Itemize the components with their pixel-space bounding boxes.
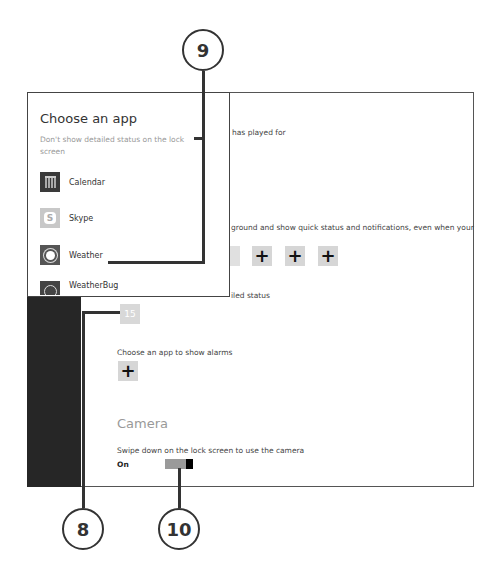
app-label: Skype xyxy=(69,214,93,223)
plus-icon: + xyxy=(287,247,302,265)
alarms-label: Choose an app to show alarms xyxy=(117,348,232,357)
flyout-title: Choose an app xyxy=(40,111,137,126)
callout-8-line xyxy=(82,311,85,508)
weather-icon xyxy=(40,245,60,265)
app-option-skype[interactable]: S Skype xyxy=(40,207,93,229)
app-label: WeatherBug xyxy=(69,281,118,290)
toggle-thumb xyxy=(186,459,193,469)
add-background-app-button-3[interactable]: + xyxy=(318,246,338,266)
app-option-weatherbug[interactable]: WeatherBug xyxy=(40,281,118,295)
settings-sidebar xyxy=(27,297,81,487)
callout-8-pointer xyxy=(82,311,120,314)
detailed-status-app-button[interactable]: 15 xyxy=(120,304,140,324)
skype-icon: S xyxy=(40,208,60,228)
dont-show-detailed-status-option[interactable]: Don't show detailed status on the lock s… xyxy=(40,134,210,158)
callout-9-line xyxy=(202,71,205,264)
app-label: Weather xyxy=(69,251,103,260)
add-background-app-button-2[interactable]: + xyxy=(285,246,305,266)
toggle-track xyxy=(165,459,186,469)
camera-section-title: Camera xyxy=(117,416,168,431)
callout-10-line xyxy=(178,468,181,508)
background-app-slot-1[interactable] xyxy=(230,246,240,266)
calendar-icon xyxy=(40,172,60,192)
camera-description: Swipe down on the lock screen to use the… xyxy=(117,446,304,455)
callout-9-pointer xyxy=(108,261,205,264)
callout-9-tick xyxy=(194,137,204,140)
app-option-weather[interactable]: Weather xyxy=(40,244,103,266)
calendar-date-icon: 15 xyxy=(124,309,135,319)
callout-10: 10 xyxy=(158,508,200,550)
add-alarm-app-button[interactable]: + xyxy=(118,361,138,381)
callout-8: 8 xyxy=(62,508,104,550)
choose-app-flyout: Choose an app Don't show detailed status… xyxy=(27,92,230,297)
weatherbug-icon xyxy=(40,281,60,295)
background-apps-description: ground and show quick status and notific… xyxy=(231,223,474,232)
add-background-app-button-1[interactable]: + xyxy=(252,246,272,266)
app-option-calendar[interactable]: Calendar xyxy=(40,171,105,193)
app-label: Calendar xyxy=(69,178,105,187)
camera-toggle-state: On xyxy=(117,460,129,469)
plus-icon: + xyxy=(120,362,135,380)
callout-9: 9 xyxy=(182,29,224,71)
lock-screen-app-text: has played for xyxy=(232,128,286,137)
plus-icon: + xyxy=(254,247,269,265)
plus-icon: + xyxy=(320,247,335,265)
detailed-status-label: iled status xyxy=(231,291,270,300)
